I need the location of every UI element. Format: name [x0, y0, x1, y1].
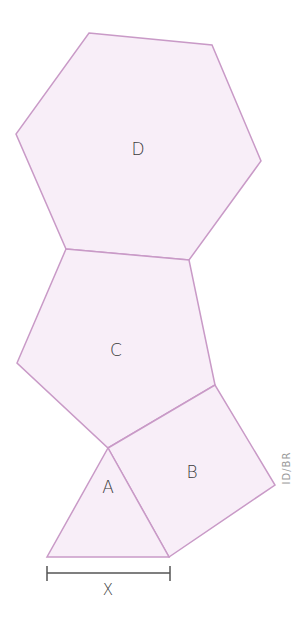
label-c: C — [110, 340, 122, 360]
diagram-canvas — [0, 0, 306, 621]
measure-bar — [47, 566, 170, 581]
label-b: B — [186, 462, 197, 482]
label-d: D — [131, 139, 144, 159]
image-credit: ID/BR — [281, 452, 292, 485]
label-a: A — [102, 477, 114, 497]
measure-label-x: X — [103, 581, 113, 599]
